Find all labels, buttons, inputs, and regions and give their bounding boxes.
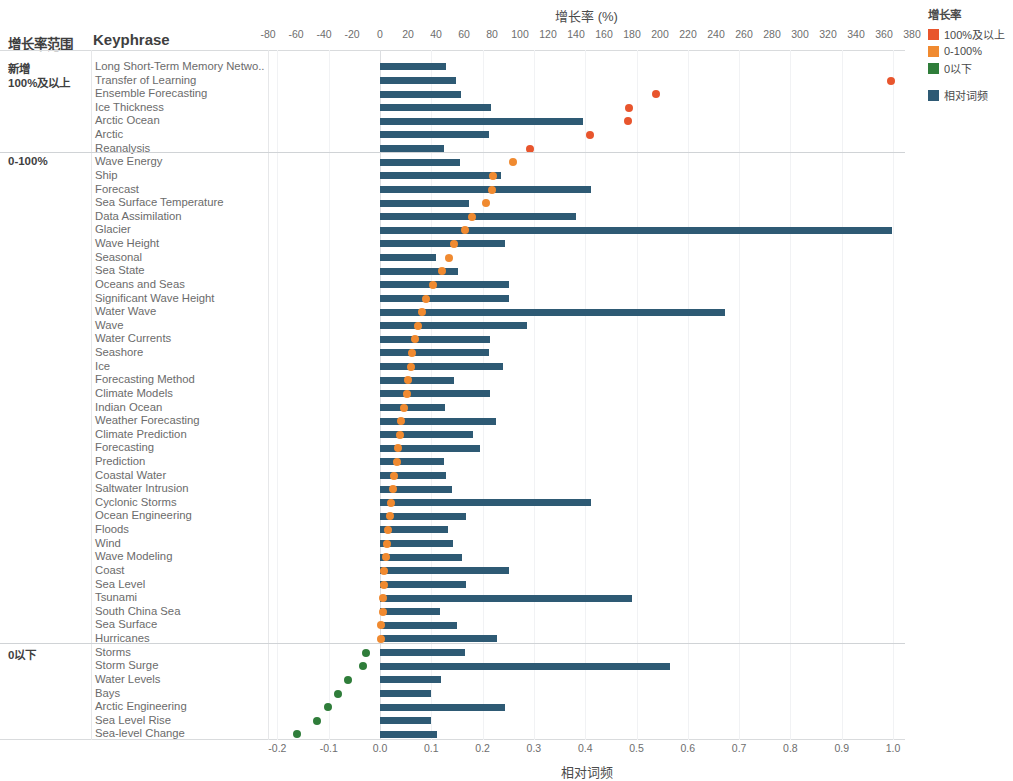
table-row[interactable]: Wind <box>0 537 905 551</box>
growth-rate-dot[interactable] <box>887 77 895 85</box>
growth-rate-dot[interactable] <box>389 485 397 493</box>
table-row[interactable]: South China Sea <box>0 605 905 619</box>
frequency-bar[interactable] <box>380 731 437 738</box>
table-row[interactable]: Forecasting <box>0 441 905 455</box>
frequency-bar[interactable] <box>380 131 489 138</box>
growth-rate-dot[interactable] <box>344 676 352 684</box>
table-row[interactable]: Wave Modeling <box>0 550 905 564</box>
frequency-bar[interactable] <box>380 390 490 397</box>
frequency-bar[interactable] <box>380 104 491 111</box>
frequency-bar[interactable] <box>380 172 501 179</box>
table-row[interactable]: Data Assimilation <box>0 210 905 224</box>
growth-rate-dot[interactable] <box>313 717 321 725</box>
frequency-bar[interactable] <box>380 77 456 84</box>
frequency-bar[interactable] <box>380 431 473 438</box>
table-row[interactable]: Ship <box>0 169 905 183</box>
frequency-bar[interactable] <box>380 254 436 261</box>
frequency-bar[interactable] <box>380 635 497 642</box>
table-row[interactable]: Glacier <box>0 223 905 237</box>
growth-rate-dot[interactable] <box>482 199 490 207</box>
frequency-bar[interactable] <box>380 608 440 615</box>
table-row[interactable]: Wave Height <box>0 237 905 251</box>
table-row[interactable]: Coast <box>0 564 905 578</box>
growth-rate-dot[interactable] <box>379 608 387 616</box>
frequency-bar[interactable] <box>380 363 503 370</box>
growth-rate-dot[interactable] <box>362 649 370 657</box>
table-row[interactable]: Saltwater Intrusion <box>0 482 905 496</box>
table-row[interactable]: Sea-level Change <box>0 727 905 741</box>
frequency-bar[interactable] <box>380 690 431 697</box>
growth-rate-dot[interactable] <box>403 390 411 398</box>
table-row[interactable]: Seashore <box>0 346 905 360</box>
table-row[interactable]: Significant Wave Height <box>0 292 905 306</box>
frequency-bar[interactable] <box>380 458 444 465</box>
frequency-bar[interactable] <box>380 676 441 683</box>
growth-rate-dot[interactable] <box>379 594 387 602</box>
growth-rate-dot[interactable] <box>400 404 408 412</box>
table-row[interactable]: Arctic Ocean <box>0 114 905 128</box>
table-row[interactable]: Long Short-Term Memory Netwo.. <box>0 60 905 74</box>
table-row[interactable]: Coastal Water <box>0 469 905 483</box>
table-row[interactable]: Arctic Engineering <box>0 700 905 714</box>
growth-rate-dot[interactable] <box>324 703 332 711</box>
table-row[interactable]: Wave <box>0 319 905 333</box>
table-row[interactable]: Cyclonic Storms <box>0 496 905 510</box>
growth-legend-item[interactable]: 0-100% <box>928 45 1013 57</box>
growth-rate-dot[interactable] <box>445 254 453 262</box>
growth-rate-dot[interactable] <box>652 90 660 98</box>
frequency-bar[interactable] <box>380 159 460 166</box>
table-row[interactable]: Indian Ocean <box>0 401 905 415</box>
table-row[interactable]: Ocean Engineering <box>0 509 905 523</box>
table-row[interactable]: Seasonal <box>0 251 905 265</box>
growth-rate-dot[interactable] <box>383 540 391 548</box>
table-row[interactable]: Oceans and Seas <box>0 278 905 292</box>
frequency-bar[interactable] <box>380 499 591 506</box>
frequency-bar[interactable] <box>380 404 445 411</box>
table-row[interactable]: Climate Models <box>0 387 905 401</box>
growth-rate-dot[interactable] <box>393 458 401 466</box>
growth-rate-dot[interactable] <box>625 104 633 112</box>
table-row[interactable]: Climate Prediction <box>0 428 905 442</box>
growth-rate-dot[interactable] <box>407 363 415 371</box>
frequency-bar[interactable] <box>380 595 632 602</box>
growth-rate-dot[interactable] <box>624 117 632 125</box>
table-row[interactable]: Water Wave <box>0 305 905 319</box>
growth-rate-dot[interactable] <box>422 295 430 303</box>
growth-rate-dot[interactable] <box>334 690 342 698</box>
growth-legend-item[interactable]: 0以下 <box>928 60 1013 76</box>
table-row[interactable]: Floods <box>0 523 905 537</box>
table-row[interactable]: Ice Thickness <box>0 101 905 115</box>
frequency-bar[interactable] <box>380 377 454 384</box>
growth-rate-dot[interactable] <box>293 730 301 738</box>
frequency-bar[interactable] <box>380 567 509 574</box>
table-row[interactable]: Weather Forecasting <box>0 414 905 428</box>
table-row[interactable]: Water Currents <box>0 332 905 346</box>
growth-rate-dot[interactable] <box>359 662 367 670</box>
growth-legend-item[interactable]: 100%及以上 <box>928 26 1013 42</box>
frequency-bar[interactable] <box>380 213 576 220</box>
frequency-bar[interactable] <box>380 336 490 343</box>
frequency-bar[interactable] <box>380 227 892 234</box>
table-row[interactable]: Water Levels <box>0 673 905 687</box>
frequency-bar[interactable] <box>380 349 489 356</box>
frequency-bar[interactable] <box>380 200 469 207</box>
table-row[interactable]: Transfer of Learning <box>0 74 905 88</box>
frequency-bar[interactable] <box>380 649 465 656</box>
table-row[interactable]: Storm Surge <box>0 659 905 673</box>
growth-rate-dot[interactable] <box>382 553 390 561</box>
table-row[interactable]: Sea State <box>0 264 905 278</box>
growth-rate-dot[interactable] <box>438 267 446 275</box>
table-row[interactable]: Ensemble Forecasting <box>0 87 905 101</box>
frequency-bar[interactable] <box>380 268 458 275</box>
frequency-bar[interactable] <box>380 309 725 316</box>
frequency-bar[interactable] <box>380 581 466 588</box>
table-row[interactable]: Tsunami <box>0 591 905 605</box>
frequency-bar[interactable] <box>380 186 591 193</box>
frequency-bar[interactable] <box>380 118 583 125</box>
growth-rate-dot[interactable] <box>390 472 398 480</box>
table-row[interactable]: Sea Level <box>0 578 905 592</box>
growth-rate-dot[interactable] <box>387 499 395 507</box>
table-row[interactable]: Arctic <box>0 128 905 142</box>
table-row[interactable]: Wave Energy <box>0 155 905 169</box>
frequency-bar[interactable] <box>380 717 431 724</box>
